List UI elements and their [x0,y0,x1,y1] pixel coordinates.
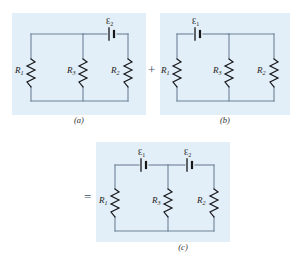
panel-b-background [160,13,290,115]
panel-c-label-emf2: Ɛ2 [184,148,191,158]
panel-b-label-R3: R3 [213,66,222,76]
caption-panel-a: (a) [59,115,99,125]
panel-c-label-emf1: Ɛ1 [138,148,145,158]
panel-a-label-emf2: Ɛ2 [106,17,113,27]
panel-a-label-R2: R2 [111,66,120,76]
panel-a-background [12,13,146,115]
panel-c-label-R2: R2 [197,196,206,206]
panel-b-label-emf1: Ɛ1 [192,17,199,27]
panel-c-label-R3: R3 [152,196,161,206]
operator-equals: = [84,190,91,203]
panel-b-label-R1: R1 [161,66,170,76]
panel-c-label-R1: R1 [99,196,108,206]
operator-plus: + [148,63,155,76]
panel-b-label-R2: R2 [257,66,266,76]
circuit-figure: R1 R3 R2 Ɛ2 R1 R3 R2 Ɛ1 R1 R3 R2 Ɛ1 Ɛ2 +… [0,0,296,262]
panel-a-label-R3: R3 [67,66,76,76]
panel-a-label-R1: R1 [15,66,24,76]
caption-panel-b: (b) [205,115,245,125]
panel-c-background [96,142,230,242]
caption-panel-c: (c) [163,242,203,252]
